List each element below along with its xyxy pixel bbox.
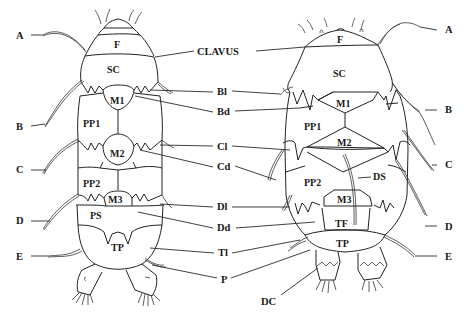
left-outer-labels: A B C D E: [16, 30, 50, 262]
plate-label-F: F: [114, 39, 120, 50]
label-B-left: B: [16, 121, 23, 132]
plate-label-PP2: PP2: [83, 178, 100, 189]
label-Bd: Bd: [217, 106, 230, 117]
plate-label-TF: TF: [335, 218, 348, 229]
label-C-left: C: [16, 164, 24, 175]
plate-label-PP2: PP2: [304, 177, 321, 188]
label-D-left: D: [16, 215, 24, 226]
plate-label-TP: TP: [111, 242, 124, 253]
plate-label-DS: DS: [373, 171, 386, 182]
label-Dl: Dl: [217, 201, 228, 212]
label-A-left: A: [16, 30, 24, 41]
plate-label-PP1: PP1: [304, 121, 321, 132]
label-DC: DC: [261, 296, 276, 307]
label-C-right: C: [445, 159, 453, 170]
label-Cl: Cl: [217, 141, 228, 152]
plate-label-M2: M2: [337, 137, 351, 148]
plate-label-M2: M2: [110, 148, 124, 159]
plate-label-M1: M1: [110, 95, 124, 106]
label-Bl: Bl: [217, 86, 227, 97]
plate-label-F: F: [337, 34, 343, 45]
plate-label-PS: PS: [90, 210, 102, 221]
label-Dd: Dd: [217, 222, 231, 233]
plate-label-M3: M3: [337, 194, 351, 205]
plate-label-M1: M1: [336, 98, 350, 109]
label-D-right: D: [445, 221, 453, 232]
plate-label-PP1: PP1: [83, 118, 100, 129]
plate-label-M3: M3: [108, 194, 122, 205]
label-B-right: B: [445, 104, 452, 115]
plate-label-SC: SC: [107, 64, 120, 75]
morphology-diagram: F SC M1 PP1 M2 PP2 M3 PS TP: [0, 0, 466, 317]
label-E-right: E: [445, 251, 452, 262]
label-Cd: Cd: [217, 161, 231, 172]
label-Tl: Tl: [218, 247, 228, 258]
label-clavus: CLAVUS: [197, 46, 239, 57]
left-specimen: F SC M1 PP1 M2 PP2 M3 PS TP: [43, 9, 174, 306]
plate-label-TP: TP: [336, 238, 349, 249]
label-E-left: E: [16, 251, 23, 262]
label-A-right: A: [445, 24, 453, 35]
label-P: P: [221, 274, 228, 285]
plate-label-SC: SC: [333, 68, 346, 79]
right-specimen: F SC M1 PP1 M2 PP2 DS M3 TF TP: [268, 18, 435, 293]
